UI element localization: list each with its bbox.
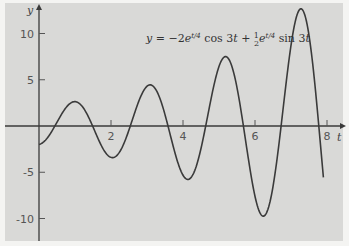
x-axis-arrow-icon — [340, 123, 346, 129]
x-tick-label: 2 — [108, 130, 115, 143]
y-tick-label: -10 — [16, 213, 34, 226]
x-tick-label: 6 — [252, 130, 259, 143]
y-tick-label: 5 — [27, 74, 34, 87]
x-axis-label: t — [337, 131, 342, 144]
x-tick-label: 4 — [180, 130, 187, 143]
y-axis-label: y — [26, 4, 34, 17]
y-axis-arrow-icon — [36, 4, 42, 10]
y-tick-label: -5 — [23, 166, 34, 179]
x-tick-label: 8 — [324, 130, 331, 143]
y-tick-label: 10 — [20, 28, 34, 41]
equation-annotation: y = −2et/4 cos 3t + 12et/4 sin 3t — [145, 31, 310, 48]
line-chart: 2468105-5-10yt y = −2et/4 cos 3t + 12et/… — [0, 0, 349, 246]
